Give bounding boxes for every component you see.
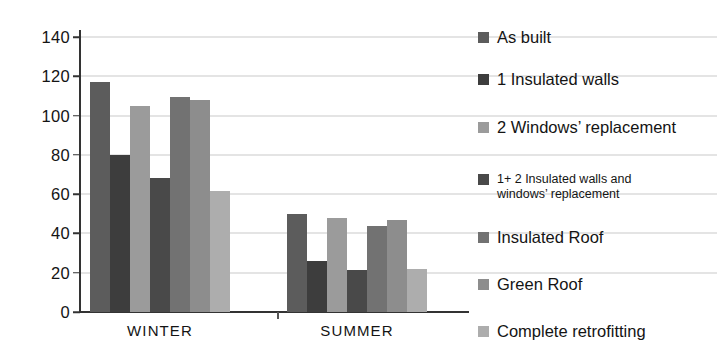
bar: [190, 100, 210, 312]
bars-layer: [0, 0, 470, 362]
x-axis-category-label: SUMMER: [320, 322, 393, 339]
bar: [367, 226, 387, 312]
plot-area: 140120100806040200 WINTERSUMMER: [0, 0, 470, 362]
bar: [110, 155, 130, 312]
legend-swatch-icon: [478, 326, 489, 337]
bar: [150, 178, 170, 312]
legend-item[interactable]: Green Roof: [478, 275, 582, 294]
bar: [347, 270, 367, 312]
legend-swatch-icon: [478, 32, 489, 43]
legend-item[interactable]: 1 Insulated walls: [478, 70, 619, 89]
legend-label: 1+ 2 Insulated walls and windows’ replac…: [497, 172, 631, 202]
legend-swatch-icon: [478, 74, 489, 85]
legend-swatch-icon: [478, 122, 489, 133]
legend-item[interactable]: 1+ 2 Insulated walls and windows’ replac…: [478, 172, 631, 202]
bar: [170, 97, 190, 312]
legend-swatch-icon: [478, 279, 489, 290]
bar-chart: 140120100806040200 WINTERSUMMER As built…: [0, 0, 717, 362]
bar: [387, 220, 407, 312]
x-axis-category-label: WINTER: [127, 322, 193, 339]
bar: [327, 218, 347, 312]
bar: [407, 269, 427, 312]
bar: [210, 191, 230, 312]
legend-label: Green Roof: [497, 275, 582, 294]
legend-item[interactable]: As built: [478, 28, 551, 47]
bar: [90, 82, 110, 312]
bar: [130, 106, 150, 312]
legend-label: 1 Insulated walls: [497, 70, 619, 89]
legend-item[interactable]: Complete retrofitting: [478, 322, 646, 341]
legend-label: As built: [497, 28, 551, 47]
legend-label: Complete retrofitting: [497, 322, 646, 341]
legend-swatch-icon: [478, 232, 489, 243]
legend-label: 2 Windows’ replacement: [497, 118, 676, 137]
legend-item[interactable]: Insulated Roof: [478, 228, 603, 247]
bar: [307, 261, 327, 312]
legend-item[interactable]: 2 Windows’ replacement: [478, 118, 676, 137]
bar: [287, 214, 307, 312]
legend-label: Insulated Roof: [497, 228, 603, 247]
legend-swatch-icon: [478, 174, 489, 185]
chart-legend: As built1 Insulated walls2 Windows’ repl…: [478, 0, 717, 362]
